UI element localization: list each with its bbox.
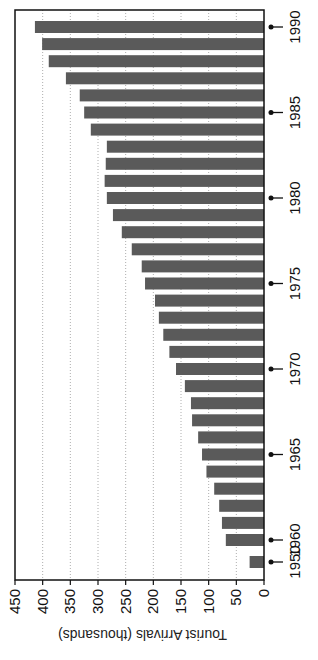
value-tick-label: 300 <box>89 589 106 614</box>
bar-1975 <box>145 278 264 290</box>
bar-1984 <box>91 124 264 136</box>
bar-1988 <box>49 55 264 67</box>
value-tick-label: 50 <box>227 589 244 606</box>
value-axis-title: Tourist Arrivals (thousands) <box>58 627 227 643</box>
value-tick-label: 400 <box>34 589 51 614</box>
bar-1987 <box>66 72 264 84</box>
bar-1977 <box>132 243 264 255</box>
value-tick-label: 350 <box>61 589 78 614</box>
bar-1960 <box>226 534 264 546</box>
bars <box>35 21 264 568</box>
bar-1990 <box>35 21 264 33</box>
bar-1976 <box>142 260 264 272</box>
value-tick-label: 250 <box>117 589 134 614</box>
bar-1966 <box>198 431 264 443</box>
year-tick-label: 1985 <box>286 96 303 129</box>
year-tick-label: 1960 <box>286 523 303 556</box>
bar-1961 <box>222 517 264 529</box>
year-tick-label: 1965 <box>286 438 303 471</box>
bar-1950 <box>250 556 264 568</box>
bar-1963 <box>214 483 264 495</box>
year-tick-label: 1970 <box>286 352 303 385</box>
bar-1981 <box>105 175 264 187</box>
value-tick-label: 450 <box>6 589 23 614</box>
value-tick-label: 150 <box>172 589 189 614</box>
bar-1978 <box>122 226 264 238</box>
bar-1974 <box>155 295 264 307</box>
bar-1979 <box>113 209 264 221</box>
bar-1983 <box>107 141 264 153</box>
tourist-arrivals-chart: 050100150200250300350400450 195019601965… <box>0 0 318 660</box>
bar-1964 <box>206 466 264 478</box>
value-tick-label: 100 <box>200 589 217 614</box>
value-tick-label: 0 <box>255 589 272 597</box>
bar-1982 <box>106 158 264 170</box>
bar-1965 <box>202 449 264 461</box>
bar-1972 <box>163 329 264 341</box>
bar-1973 <box>159 312 264 324</box>
bar-1989 <box>42 38 264 50</box>
value-tick-label: 200 <box>144 589 161 614</box>
year-axis-ticks: 19501960196519701975198019851990 <box>269 10 304 578</box>
year-tick-label: 1975 <box>286 267 303 300</box>
bar-1971 <box>169 346 264 358</box>
year-tick-label: 1980 <box>286 181 303 214</box>
bar-1980 <box>107 192 264 204</box>
bar-1970 <box>176 363 264 375</box>
bar-1985 <box>84 107 264 119</box>
bar-1967 <box>192 414 264 426</box>
bar-1968 <box>191 397 264 409</box>
bar-1969 <box>185 380 264 392</box>
year-tick-label: 1990 <box>286 10 303 43</box>
bar-1986 <box>80 89 264 101</box>
bar-1962 <box>219 500 264 512</box>
value-axis-ticks: 050100150200250300350400450 <box>6 580 272 614</box>
